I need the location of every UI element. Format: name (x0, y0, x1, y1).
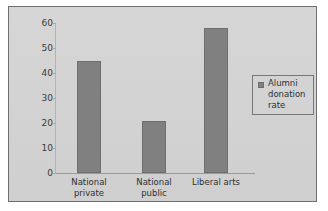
y-tick-label-10: 10 (27, 144, 53, 153)
y-tick-mark-50 (53, 48, 56, 49)
x-category-label-national-private: National private (58, 177, 120, 198)
x-category-line-1: Liberal arts (185, 177, 247, 188)
bar-national-public (142, 121, 166, 174)
x-category-line-1: National (123, 177, 185, 188)
chart-legend: Alumni donation rate (252, 75, 314, 115)
y-tick-label-60: 60 (27, 19, 53, 28)
bar-national-private (77, 61, 101, 174)
y-tick-label-30: 30 (27, 94, 53, 103)
legend-label-line-1: Alumni (268, 78, 314, 89)
legend-label-line-3: rate (268, 100, 314, 111)
x-category-line-2: private (58, 188, 120, 199)
y-tick-mark-20 (53, 123, 56, 124)
y-tick-label-50: 50 (27, 44, 53, 53)
y-tick-label-0: 0 (27, 169, 53, 178)
x-category-line-2: public (123, 188, 185, 199)
legend-swatch-alumni-donation-rate (258, 82, 264, 88)
y-tick-mark-10 (53, 148, 56, 149)
bar-chart: 60 50 40 30 20 10 0 National private Nat… (0, 0, 328, 211)
x-category-label-liberal-arts: Liberal arts (185, 177, 247, 188)
y-tick-mark-30 (53, 98, 56, 99)
legend-label-alumni-donation-rate: Alumni donation rate (268, 78, 314, 111)
legend-label-line-2: donation (268, 89, 314, 100)
x-category-label-national-public: National public (123, 177, 185, 198)
y-tick-mark-60 (53, 23, 56, 24)
x-axis-line (55, 173, 255, 174)
x-category-line-1: National (58, 177, 120, 188)
y-tick-mark-0 (53, 173, 56, 174)
y-tick-label-40: 40 (27, 69, 53, 78)
y-axis-tick-labels: 60 50 40 30 20 10 0 (19, 7, 53, 201)
chart-frame: 60 50 40 30 20 10 0 National private Nat… (8, 6, 317, 202)
y-tick-label-20: 20 (27, 119, 53, 128)
bar-liberal-arts (204, 28, 228, 173)
y-tick-mark-40 (53, 73, 56, 74)
